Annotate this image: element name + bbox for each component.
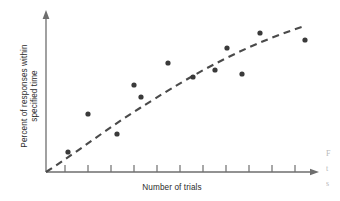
x-axis-ticks [65, 165, 295, 172]
data-point [302, 37, 307, 42]
data-point [165, 60, 170, 65]
data-point [224, 45, 229, 50]
y-axis-label-line2: specified time [30, 70, 39, 122]
y-axis-arrow-icon [43, 10, 50, 19]
trend-curve [46, 26, 305, 172]
data-point [65, 149, 70, 154]
y-axis-label: Percent of responses within specified ti… [20, 44, 39, 148]
caption-fragment: F t s [326, 146, 340, 194]
caption-fragment-line3: s [326, 176, 340, 191]
chart-figure: Percent of responses within specified ti… [0, 0, 340, 201]
data-point [257, 30, 262, 35]
data-points [65, 30, 307, 154]
caption-fragment-line1: F [326, 146, 340, 161]
data-point [212, 67, 217, 72]
learning-curve-scatter-chart: Percent of responses within specified ti… [0, 0, 340, 201]
data-point [131, 82, 136, 87]
caption-fragment-line2: t [326, 161, 340, 176]
data-point [190, 74, 195, 79]
data-point [114, 131, 119, 136]
data-point [239, 71, 244, 76]
x-axis-label: Number of trials [142, 183, 201, 192]
data-point [85, 111, 90, 116]
y-axis-label-line1: Percent of responses within [20, 44, 29, 148]
data-point [138, 94, 143, 99]
x-axis-arrow-icon [310, 169, 319, 175]
